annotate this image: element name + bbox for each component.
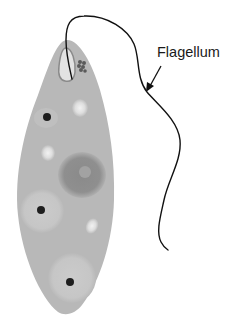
flagellum-pointer-arrow [146, 66, 161, 92]
pale-region-bottom [48, 253, 96, 303]
dark-granule-3 [66, 278, 74, 286]
dark-granule-2 [37, 206, 45, 214]
flagellum-label: Flagellum [157, 44, 220, 60]
dark-granule-1 [43, 113, 51, 121]
nucleolus [79, 166, 91, 178]
light-vacuole-1 [72, 99, 88, 117]
light-vacuole-2 [41, 145, 55, 161]
